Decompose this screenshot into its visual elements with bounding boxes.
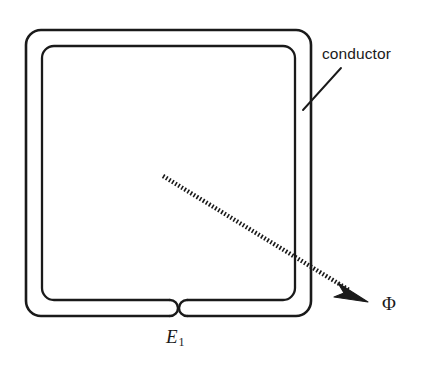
conductor-label: conductor: [322, 46, 391, 62]
emf-symbol: E: [166, 326, 178, 347]
flux-arrow-shaft: [163, 176, 349, 290]
flux-symbol-label: Φ: [382, 294, 396, 313]
conductor-gap-right-cap: [179, 300, 187, 316]
flux-arrowhead-icon: [334, 283, 368, 302]
emf-label: E1: [166, 327, 184, 346]
conductor-leader-line: [303, 68, 341, 110]
figure-canvas: conductor Φ E1: [0, 0, 425, 365]
conductor-outer-wall: [26, 30, 311, 316]
conductor-inner-wall: [42, 46, 295, 300]
conductor-gap-left-cap: [170, 300, 178, 316]
emf-subscript: 1: [179, 335, 185, 349]
